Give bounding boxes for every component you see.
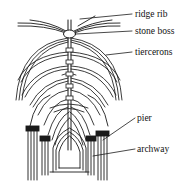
label-tiercerons: tiercerons <box>135 48 172 58</box>
label-archway: archway <box>137 145 169 155</box>
label-pier: pier <box>137 114 152 124</box>
label-stone-boss: stone boss <box>135 27 174 37</box>
stone-boss-shape <box>64 30 76 38</box>
archway-shape <box>50 128 89 172</box>
label-ridge-rib: ridge rib <box>135 10 167 20</box>
ridge-bosses <box>66 48 73 100</box>
